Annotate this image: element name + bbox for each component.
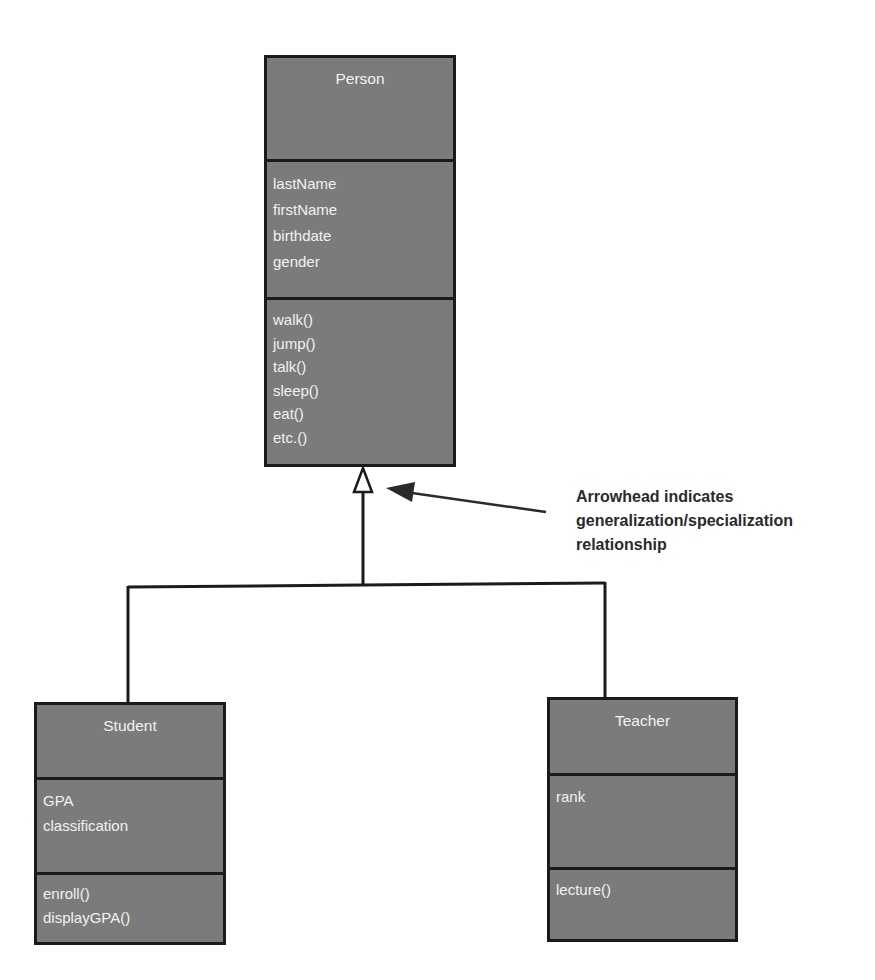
annotation-pointer-line [405, 492, 546, 512]
class-teacher[interactable]: Teacher rank lecture() [547, 697, 738, 942]
method-displaygpa: displayGPA() [43, 906, 223, 930]
method-talk: talk() [273, 355, 453, 379]
class-person-name: Person [267, 58, 453, 88]
method-lecture: lecture() [556, 877, 735, 903]
class-person-name-compartment: Person [267, 58, 453, 159]
generalization-bus-line [128, 583, 605, 587]
attribute-gpa: GPA [43, 788, 223, 813]
method-jump: jump() [273, 332, 453, 356]
class-student[interactable]: Student GPA classification enroll() disp… [34, 702, 226, 945]
annotation-line-1: Arrowhead indicates [576, 485, 866, 509]
attribute-firstname: firstName [273, 197, 453, 223]
class-person-methods-compartment: walk() jump() talk() sleep() eat() etc.(… [267, 297, 453, 464]
class-teacher-name-compartment: Teacher [550, 700, 735, 773]
class-teacher-attributes-compartment: rank [550, 773, 735, 867]
generalization-annotation: Arrowhead indicates generalization/speci… [576, 485, 866, 557]
attribute-birthdate: birthdate [273, 223, 453, 249]
method-etc: etc.() [273, 426, 453, 450]
annotation-line-2: generalization/specialization [576, 509, 866, 533]
method-enroll: enroll() [43, 882, 223, 906]
class-teacher-methods-compartment: lecture() [550, 867, 735, 939]
class-student-name: Student [37, 705, 223, 735]
class-student-attributes-compartment: GPA classification [37, 777, 223, 872]
method-walk: walk() [273, 308, 453, 332]
class-student-name-compartment: Student [37, 705, 223, 777]
attribute-gender: gender [273, 249, 453, 275]
class-person[interactable]: Person lastName firstName birthdate gend… [264, 55, 456, 467]
method-sleep: sleep() [273, 379, 453, 403]
attribute-classification: classification [43, 813, 223, 838]
class-person-attributes-compartment: lastName firstName birthdate gender [267, 159, 453, 297]
annotation-pointer-arrowhead-icon [386, 482, 415, 502]
generalization-arrowhead-icon [354, 468, 372, 492]
method-eat: eat() [273, 402, 453, 426]
annotation-line-3: relationship [576, 533, 866, 557]
attribute-rank: rank [556, 784, 735, 810]
attribute-lastname: lastName [273, 171, 453, 197]
class-student-methods-compartment: enroll() displayGPA() [37, 872, 223, 942]
class-teacher-name: Teacher [550, 700, 735, 730]
